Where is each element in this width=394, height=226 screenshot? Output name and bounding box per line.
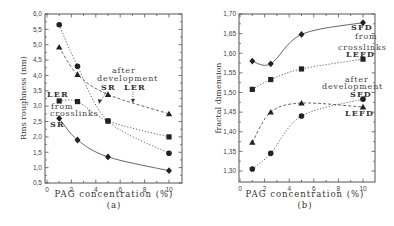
y-tick-label: 1,60 — [223, 50, 236, 57]
marker-square — [268, 77, 273, 82]
annot-sfd: SFD — [351, 22, 373, 32]
series-square — [57, 98, 172, 139]
marker-circle — [75, 63, 81, 69]
panel-b: 02468101,301,351,401,451,501,551,601,651… — [223, 10, 375, 192]
y-tick-label: 2,0 — [33, 133, 42, 140]
y-tick-label: 5,5 — [33, 26, 42, 33]
marker-diamond — [105, 153, 111, 160]
series-line — [59, 118, 169, 170]
series-line — [59, 100, 169, 137]
panel-b-xlabel: PAG concentration (%) — [246, 189, 365, 199]
y-tick-label: 1,50 — [223, 89, 236, 96]
marker-circle — [250, 166, 256, 172]
marker-square — [75, 99, 80, 104]
marker-circle — [166, 150, 172, 156]
figure: 02468100,51,01,52,02,53,03,54,04,55,05,5… — [0, 0, 394, 226]
marker-diamond — [249, 58, 255, 65]
y-tick-label: 4,0 — [33, 72, 42, 79]
panel-a-xlabel: PAG concentration (%) — [55, 189, 174, 199]
marker-triangle — [249, 139, 255, 145]
y-tick-label: 6,0 — [33, 10, 42, 17]
annot-from-b: from — [355, 32, 377, 41]
y-tick-label: 5,0 — [33, 41, 42, 48]
marker-circle — [56, 22, 62, 28]
y-tick-label: 1,55 — [223, 69, 236, 76]
y-tick-label: 3,0 — [33, 102, 42, 109]
y-tick-label: 1,0 — [33, 164, 42, 171]
panel-a-label: (a) — [107, 200, 122, 210]
y-tick-label: 1,5 — [33, 149, 42, 156]
x-tick-label: 0 — [45, 186, 49, 193]
marker-triangle — [268, 109, 274, 115]
y-tick-label: 1,40 — [223, 128, 236, 135]
marker-square — [166, 134, 171, 139]
y-tick-label: 3,5 — [33, 87, 42, 94]
marker-square — [250, 87, 255, 92]
marker-triangle — [74, 71, 80, 77]
y-tick-label: 2,5 — [33, 118, 42, 125]
annot-sfd-after: SFD — [350, 89, 372, 99]
annot-sr-after: SR — [101, 82, 116, 92]
y-tick-label: 1,45 — [223, 108, 236, 115]
annot-crosslinks: crosslinks — [50, 109, 99, 118]
marker-square — [105, 118, 110, 123]
panel-a-ylabel: Rms roughness (nm) — [19, 56, 28, 140]
y-tick-label: 4,5 — [33, 56, 42, 63]
annot-lefd: LEFD — [346, 49, 375, 59]
y-tick-label: 0,5 — [33, 179, 42, 186]
marker-diamond — [268, 60, 274, 67]
annot-ler-after: LER — [124, 82, 146, 92]
marker-square — [299, 66, 304, 71]
y-tick-label: 1,30 — [223, 167, 236, 174]
annot-ler: LER — [47, 89, 69, 99]
marker-triangle — [56, 44, 62, 50]
y-tick-label: 1,70 — [223, 10, 236, 17]
series-diamond — [56, 115, 172, 174]
panel-b-ylabel: fractal dimension — [214, 63, 223, 134]
marker-diamond — [299, 31, 305, 38]
y-tick-label: 1,35 — [223, 148, 236, 155]
marker-diamond — [166, 167, 172, 174]
x-tick-label: 0 — [238, 185, 242, 192]
panel-b-label: (b) — [297, 200, 312, 210]
marker-circle — [299, 113, 305, 119]
annot-lefd-after: LEFD — [345, 108, 374, 118]
y-tick-label: 1,65 — [223, 30, 236, 37]
marker-circle — [268, 151, 274, 157]
series-triangle — [249, 100, 366, 145]
annot-sr: SR — [50, 119, 65, 129]
